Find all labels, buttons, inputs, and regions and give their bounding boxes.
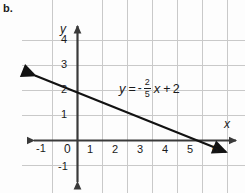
y-tick-label-1: 1 [61, 108, 67, 120]
origin-label: 0 [64, 142, 71, 156]
figure-container: b. [0, 0, 245, 193]
fraction-numerator: 2 [144, 78, 151, 87]
equation-fraction: 2 5 [144, 78, 151, 99]
x-tick-label-5: 5 [187, 143, 193, 155]
x-axis-label: x [224, 117, 230, 131]
y-tick-label-3: 3 [61, 58, 67, 70]
y-tick-label-2: 2 [61, 83, 67, 95]
x-tick-label-2: 2 [112, 143, 118, 155]
x-tick-label-neg1: -1 [36, 142, 46, 154]
y-tick-label-neg1: -1 [58, 160, 68, 172]
equation-lhs: y [119, 81, 126, 96]
fraction-denominator: 5 [144, 90, 151, 99]
equation-plus-sign: + [163, 82, 170, 96]
equation-constant: 2 [173, 82, 180, 96]
equation-annotation: y = - 2 5 x + 2 [119, 78, 180, 99]
equation-equals-sign: = [129, 82, 136, 96]
x-tick-label-6: 6 [212, 143, 218, 155]
y-tick-label-4: 4 [61, 33, 67, 45]
x-tick-label-1: 1 [87, 143, 93, 155]
equation-minus-sign: - [138, 81, 142, 95]
equation-variable: x [154, 81, 161, 96]
x-tick-label-3: 3 [137, 143, 143, 155]
x-tick-label-4: 4 [162, 143, 168, 155]
